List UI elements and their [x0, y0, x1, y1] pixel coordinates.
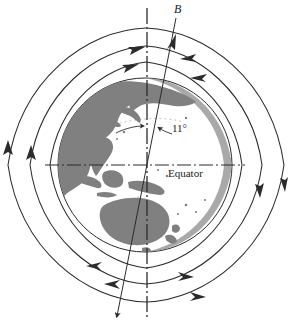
island-dot-10 [152, 239, 154, 241]
island-dot-9 [185, 117, 187, 119]
arrow-right-outer-up [280, 177, 288, 192]
island-dot-6 [157, 169, 159, 171]
arrow-top-left-outer [128, 47, 145, 55]
island-dot-4 [177, 213, 179, 215]
island-dot-7 [123, 131, 125, 133]
magnetic-axis-upper-arrow [167, 34, 176, 50]
arrow-bottom-left-middle [104, 280, 120, 289]
arrow-bottom-right-middle [190, 292, 206, 301]
island-dot-2 [195, 211, 197, 213]
field-symbol-label: B [174, 3, 181, 15]
earth-globe [56, 78, 232, 253]
arrow-top-left-middle [122, 64, 139, 73]
tilt-angle-label: 11° [172, 123, 187, 134]
island-dot-1 [185, 204, 188, 207]
equator-label: Equator [168, 168, 203, 179]
magnetic-field-diagram: B 11° Equator [0, 0, 294, 328]
island-dot-8 [116, 138, 118, 140]
diagram-canvas [0, 0, 294, 328]
island-dot-3 [204, 199, 206, 201]
